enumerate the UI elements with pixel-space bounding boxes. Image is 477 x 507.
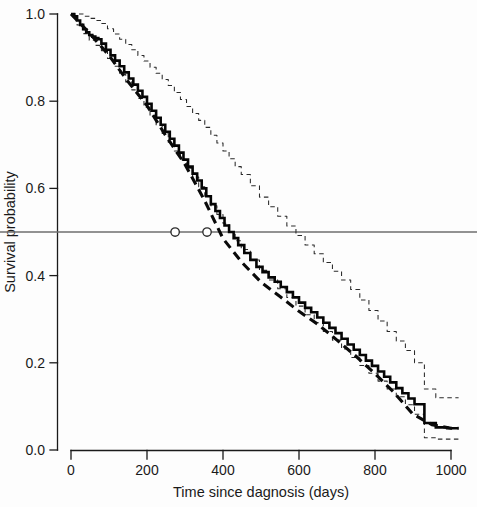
x-tick-label-800: 800 bbox=[363, 462, 387, 478]
y-tick-label-0.0: 0.0 bbox=[26, 442, 46, 458]
y-tick-label-0.8: 0.8 bbox=[26, 93, 46, 109]
x-tick-label-200: 200 bbox=[135, 462, 159, 478]
y-tick-label-0.4: 0.4 bbox=[26, 268, 46, 284]
x-tick-label-1000: 1000 bbox=[435, 462, 466, 478]
x-tick-label-400: 400 bbox=[211, 462, 235, 478]
median-ci-upper-marker bbox=[203, 228, 211, 236]
kaplan-meier-step-curve bbox=[71, 14, 459, 428]
x-axis-title: Time since dagnosis (days) bbox=[173, 484, 349, 500]
x-tick-label-600: 600 bbox=[287, 462, 311, 478]
x-tick-label-0: 0 bbox=[67, 462, 75, 478]
x-axis-ticks bbox=[71, 451, 451, 460]
survival-curve-figure: 0.00.20.40.60.81.0 Survival probability … bbox=[0, 0, 477, 507]
x-axis-group: 02004006008001000 Time since dagnosis (d… bbox=[67, 451, 467, 501]
x-axis-tick-labels: 02004006008001000 bbox=[67, 462, 467, 478]
plot-content bbox=[0, 14, 477, 439]
y-tick-label-0.6: 0.6 bbox=[26, 180, 46, 196]
median-ci-lower-marker bbox=[171, 228, 179, 236]
kaplan-meier-chart: 0.00.20.40.60.81.0 Survival probability … bbox=[0, 0, 477, 507]
y-tick-label-0.2: 0.2 bbox=[26, 355, 46, 371]
y-tick-label-1.0: 1.0 bbox=[26, 6, 46, 22]
